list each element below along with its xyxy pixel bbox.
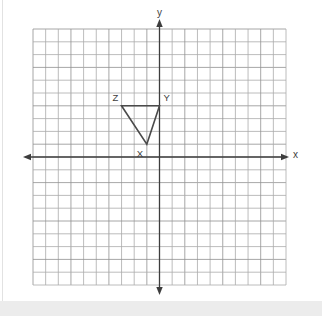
x-axis-left-arrow <box>23 154 31 160</box>
y-axis-label: y <box>157 7 162 18</box>
x-axis-right-arrow <box>281 154 289 160</box>
page-bottom-strip <box>0 301 322 316</box>
y-axis-bottom-arrow <box>156 287 162 295</box>
vertex-label-x: X <box>137 148 144 159</box>
x-axis-label: x <box>293 149 298 160</box>
worksheet-page: XYZ x y <box>0 0 322 316</box>
vertex-label-y: Y <box>164 92 171 103</box>
axes <box>23 19 289 295</box>
coordinate-grid-figure: XYZ x y <box>0 0 322 316</box>
triangle-xyz <box>122 106 160 144</box>
vertex-label-z: Z <box>113 92 119 103</box>
y-axis-top-arrow <box>156 19 162 27</box>
